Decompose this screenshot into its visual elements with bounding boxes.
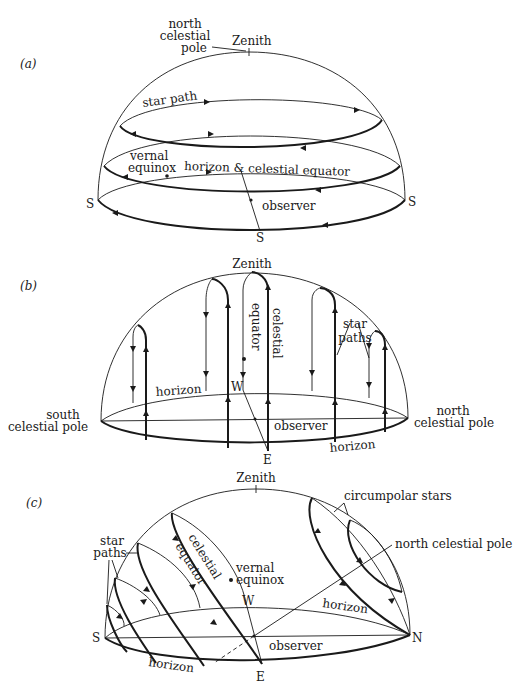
label-star-paths-2: paths — [93, 546, 127, 560]
label-observer: observer — [274, 419, 328, 433]
label-celestial: celestial — [270, 308, 284, 359]
dome-outline — [98, 52, 405, 200]
arrow-icon — [210, 619, 217, 625]
label-vernal-2: equinox — [128, 161, 176, 175]
label-ncp: north celestial pole — [395, 537, 512, 551]
label-scp-2: celestial pole — [8, 420, 88, 434]
arrow-icon — [382, 344, 388, 350]
meridian-line — [105, 635, 410, 638]
arrow-icon — [130, 346, 136, 352]
panel-label-c: (c) — [26, 496, 42, 510]
celestial-equator-front — [252, 272, 268, 451]
label-circumpolar: circumpolar stars — [344, 489, 452, 503]
label-e: E — [256, 670, 265, 684]
observer-dot — [252, 634, 255, 637]
arrow-icon — [240, 372, 246, 378]
panel-label-b: (b) — [20, 279, 37, 293]
panel-a: (a) north celestial pole — [20, 17, 416, 245]
label-horizon-front: horizon — [329, 437, 376, 455]
label-n: N — [412, 631, 423, 645]
label-w: W — [242, 594, 255, 608]
base-back — [98, 174, 405, 200]
panel-c: (c) — [26, 471, 512, 684]
arrow-icon — [208, 131, 214, 137]
arrow-icon — [143, 586, 150, 592]
star-path-back — [133, 325, 138, 403]
label-horizon-equator: horizon & celestial equator — [184, 159, 351, 179]
arrow-icon — [225, 396, 231, 402]
star-paths-pointer — [107, 560, 109, 604]
label-observer: observer — [262, 199, 316, 213]
label-vernal-2: equinox — [236, 573, 284, 587]
arrow-icon — [265, 398, 271, 404]
star-path-front — [138, 325, 146, 440]
arrow-icon — [116, 613, 123, 619]
arrow-icon — [143, 410, 149, 416]
arrow-icon — [332, 307, 338, 313]
label-ncp-3: pole — [181, 41, 207, 55]
arrow-icon — [130, 131, 136, 137]
arrow-icon — [189, 584, 196, 590]
vernal-equinox-dot — [229, 578, 233, 582]
arrow-icon — [204, 99, 210, 105]
arrow-icon — [388, 598, 395, 604]
star-path-back — [115, 578, 160, 615]
arrow-icon — [140, 599, 147, 605]
panel-label-a: (a) — [20, 57, 37, 71]
star-path-front — [120, 120, 382, 147]
arrow-icon — [300, 145, 306, 151]
label-ncp-2: celestial pole — [414, 416, 494, 430]
panel-b: (b) — [8, 257, 494, 467]
arrow-icon — [382, 408, 388, 414]
arrow-icon — [332, 399, 338, 405]
celestial-equator-front — [172, 513, 262, 664]
label-equator: equator — [249, 303, 263, 351]
observer-dot — [254, 418, 257, 421]
arrow-icon — [203, 371, 209, 377]
label-observer: observer — [269, 639, 323, 653]
star-path-front — [375, 331, 385, 432]
label-star-paths-1: star — [343, 317, 367, 331]
label-s-bottom: S — [256, 231, 264, 245]
label-e: E — [263, 453, 272, 467]
star-paths-pointer — [112, 560, 118, 578]
arrow-icon — [225, 302, 231, 308]
arrow-icon — [143, 346, 149, 352]
arrow-icon — [265, 284, 271, 290]
label-s: S — [92, 631, 100, 645]
label-s-left: S — [86, 197, 94, 211]
label-zenith: Zenith — [236, 471, 276, 485]
arrow-icon — [130, 386, 136, 392]
vernal-equinox-dot — [242, 357, 246, 361]
label-zenith: Zenith — [232, 257, 272, 271]
label-s-right: S — [408, 195, 416, 209]
arrow-icon — [203, 312, 209, 318]
observer-line — [246, 603, 262, 664]
arrow-icon — [322, 222, 328, 228]
arrow-icon — [366, 382, 372, 388]
star-path-back — [312, 288, 320, 391]
arrow-icon — [309, 370, 315, 376]
observer-dot — [249, 198, 252, 201]
arrow-icon — [314, 528, 321, 533]
arrow-icon — [354, 107, 360, 113]
label-w: W — [231, 380, 244, 394]
celestial-sphere-diagram: (a) north celestial pole — [0, 0, 520, 699]
label-zenith: Zenith — [232, 34, 272, 48]
label-star-paths-2: paths — [338, 331, 372, 345]
star-path-front — [212, 279, 228, 448]
